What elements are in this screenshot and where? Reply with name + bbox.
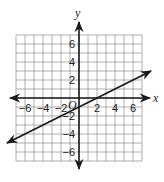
x-tick-label: 2 <box>94 102 100 114</box>
y-tick-label: −4 <box>62 128 75 140</box>
x-tick-label: −6 <box>19 102 32 114</box>
y-tick-label: −6 <box>62 146 75 158</box>
y-tick-label: 2 <box>69 74 75 86</box>
y-tick-label: 4 <box>69 56 75 68</box>
x-tick-label: −4 <box>37 102 50 114</box>
y-tick-label: 6 <box>69 38 75 50</box>
y-axis-label: y <box>74 6 81 20</box>
origin-label: O <box>68 98 77 112</box>
coordinate-plane: −6−4−2246−6−4−2246 x y O <box>0 0 164 182</box>
x-axis-label: x <box>152 91 159 105</box>
x-tick-label: 4 <box>112 102 118 114</box>
x-tick-label: 6 <box>130 102 136 114</box>
